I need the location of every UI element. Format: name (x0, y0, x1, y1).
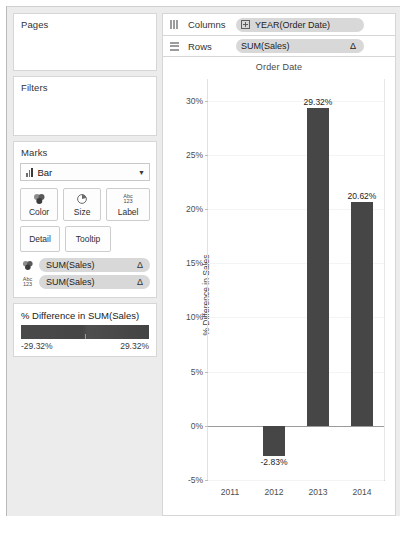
legend-title: % Difference in SUM(Sales) (14, 304, 156, 325)
bar-value-label: -2.83% (251, 457, 297, 467)
y-axis-tick-label: 15% (186, 258, 208, 268)
bar-value-label: 20.62% (339, 191, 385, 201)
delta-icon: Δ (137, 277, 143, 287)
bar-value-label: 29.32% (295, 97, 341, 107)
x-axis-tick-label: 2012 (265, 487, 284, 497)
detail-button-label: Detail (29, 234, 51, 244)
plot-wrapper: % Difference in Sales 30%25%20%15%10%5%0… (163, 75, 395, 515)
x-axis-tick-label: 2013 (309, 487, 328, 497)
pill-sum-sales-color[interactable]: SUM(Sales) Δ (39, 258, 150, 272)
marks-card: Marks Bar ▼ Color (13, 141, 157, 298)
chart-view[interactable]: Order Date % Difference in Sales 30%25%2… (162, 57, 396, 516)
label-button[interactable]: Abc 123 Label (106, 188, 150, 221)
y-axis-tick-label: -5% (188, 475, 208, 485)
view-column: Columns YEAR(Order Date) Rows SUM(Sales)… (162, 7, 400, 516)
y-axis-tick-label: 0% (191, 421, 208, 431)
filters-title: Filters (14, 77, 156, 97)
mark-type-value: Bar (38, 167, 53, 178)
pill-label: SUM(Sales) (241, 41, 290, 51)
color-palette-icon (33, 193, 46, 206)
columns-shelf[interactable]: Columns YEAR(Order Date) (162, 13, 396, 35)
legend-values: -29.32% 29.32% (14, 339, 156, 351)
delta-icon: Δ (137, 260, 143, 270)
delta-icon: Δ (350, 41, 356, 51)
y-axis-tick-label: 5% (191, 367, 208, 377)
marks-button-row-1: Color Size Abc 123 (14, 188, 156, 226)
123-text: 123 (123, 198, 132, 204)
plot-area: 30%25%20%15%10%5%0%-5%20112012-2.83%2013… (207, 79, 385, 481)
y-axis-tick-label: 25% (186, 150, 208, 160)
color-button-label: Color (29, 207, 49, 217)
abc123-label-icon: Abc 123 (123, 193, 132, 206)
abc123-label-icon: Abc 123 (20, 276, 35, 289)
color-button[interactable]: Color (20, 188, 58, 221)
left-shelf-column: Pages Filters Marks Bar ▼ (7, 7, 162, 516)
size-button-label: Size (74, 207, 91, 217)
y-axis-tick-label: 20% (186, 204, 208, 214)
123-text: 123 (23, 281, 32, 287)
tableau-workbook: Pages Filters Marks Bar ▼ (6, 6, 400, 516)
pill-sum-sales-rows[interactable]: SUM(Sales) Δ (236, 39, 364, 53)
columns-shelf-label: Columns (188, 19, 236, 30)
marks-pill-label[interactable]: Abc 123 SUM(Sales) Δ (14, 274, 156, 291)
pill-label: YEAR(Order Date) (255, 20, 330, 30)
gridline (208, 155, 384, 156)
bar-2012[interactable] (263, 426, 286, 457)
bar-2014[interactable] (351, 202, 374, 425)
chart-title: Order Date (163, 57, 395, 72)
tooltip-button-label: Tooltip (76, 234, 101, 244)
y-axis-tick-label: 30% (186, 96, 208, 106)
expand-plus-icon[interactable] (241, 20, 250, 29)
label-button-label: Label (118, 207, 139, 217)
zero-line (208, 426, 384, 427)
rows-shelf-label: Rows (188, 41, 236, 52)
bar-2013[interactable] (307, 108, 330, 426)
columns-shelf-icon (170, 20, 182, 29)
tooltip-button[interactable]: Tooltip (65, 226, 111, 252)
filters-card[interactable]: Filters (13, 76, 157, 136)
pill-year-order-date[interactable]: YEAR(Order Date) (236, 18, 364, 32)
x-axis-tick-label: 2011 (221, 487, 239, 497)
pages-card[interactable]: Pages (13, 13, 157, 71)
mark-type-dropdown[interactable]: Bar ▼ (20, 163, 150, 181)
gridline (208, 480, 384, 481)
size-button[interactable]: Size (63, 188, 101, 221)
marks-button-row-2: Detail Tooltip (14, 226, 156, 257)
y-axis-tick-label: 10% (186, 312, 208, 322)
bar-mark-icon (26, 168, 33, 177)
marks-pill-color[interactable]: SUM(Sales) Δ (14, 257, 156, 274)
detail-button[interactable]: Detail (20, 226, 60, 252)
pill-label: SUM(Sales) (46, 277, 95, 287)
chevron-down-icon[interactable]: ▼ (138, 169, 145, 176)
legend-min-label: -29.32% (21, 341, 53, 351)
marks-title: Marks (14, 142, 156, 162)
rows-shelf-icon (170, 42, 182, 51)
legend-gradient-bar[interactable] (21, 325, 149, 339)
pill-label: SUM(Sales) (46, 260, 95, 270)
pill-sum-sales-label[interactable]: SUM(Sales) Δ (39, 275, 150, 289)
size-pie-icon (76, 193, 88, 206)
x-axis-tick-label: 2014 (353, 487, 372, 497)
rows-shelf[interactable]: Rows SUM(Sales) Δ (162, 35, 396, 57)
color-palette-icon (20, 259, 35, 272)
legend-max-label: 29.32% (120, 341, 149, 351)
color-legend-card: % Difference in SUM(Sales) -29.32% 29.32… (13, 303, 157, 357)
pages-title: Pages (14, 14, 156, 34)
legend-midpoint-tick (85, 334, 86, 339)
